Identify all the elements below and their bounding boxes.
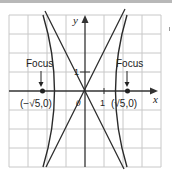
y-tick-1-label: 1 bbox=[74, 67, 79, 77]
focus-right-dot bbox=[125, 89, 130, 94]
y-axis-arrow-icon bbox=[82, 15, 89, 23]
hyperbola-graph: Focus (−√5,0) Focus (√5,0) y x 0 1 1 bbox=[0, 0, 172, 178]
origin-label: 0 bbox=[76, 98, 81, 108]
focus-left-dot bbox=[40, 89, 45, 94]
y-axis-label: y bbox=[72, 14, 78, 26]
focus-left-label: Focus bbox=[26, 58, 53, 69]
focus-left-coord: (−√5,0) bbox=[20, 98, 52, 109]
x-axis-label: x bbox=[152, 93, 158, 105]
focus-right-arrow-icon bbox=[125, 82, 130, 87]
focus-right-label: Focus bbox=[116, 58, 143, 69]
focus-left: Focus (−√5,0) bbox=[20, 58, 53, 109]
x-tick-1-label: 1 bbox=[100, 98, 105, 108]
focus-left-arrow-icon bbox=[39, 82, 44, 87]
focus-right-coord: (√5,0) bbox=[111, 98, 137, 109]
